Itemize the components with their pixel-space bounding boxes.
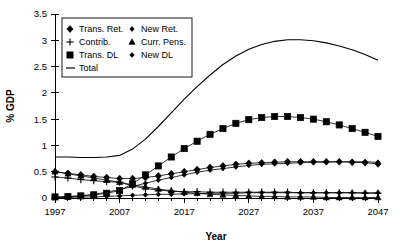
data-point-marker <box>285 190 289 195</box>
data-point-marker <box>363 190 367 195</box>
legend-item-label: New DL <box>141 50 173 60</box>
data-point-marker <box>349 126 355 132</box>
series-curr-pens <box>52 169 381 200</box>
data-point-marker <box>376 190 380 195</box>
data-point-marker <box>220 126 226 132</box>
data-point-marker <box>324 190 328 195</box>
y-tick-label: 3.5 <box>34 8 47 19</box>
y-tick-label: 1 <box>42 140 47 151</box>
data-point-marker <box>207 131 213 137</box>
data-point-marker <box>260 190 264 195</box>
x-tick-label: 2017 <box>174 206 195 217</box>
data-point-marker <box>284 113 290 119</box>
data-point-marker <box>246 117 252 123</box>
data-point-marker <box>298 190 302 195</box>
data-point-marker <box>117 188 123 194</box>
chart-figure: 00.511.522.533.5 19972007201720272037204… <box>0 0 400 247</box>
data-point-marker <box>272 113 278 119</box>
data-point-marker <box>233 120 239 126</box>
data-point-marker <box>156 192 160 197</box>
series-path <box>55 162 378 179</box>
data-point-marker <box>247 190 251 195</box>
legend-item-label: New Ret. <box>141 24 178 34</box>
data-point-marker <box>129 181 135 187</box>
data-point-marker <box>311 190 315 195</box>
data-point-marker <box>259 114 265 120</box>
data-point-marker <box>323 119 329 125</box>
data-point-marker <box>143 192 147 197</box>
x-tick-label: 2037 <box>303 206 324 217</box>
data-point-marker <box>350 190 354 195</box>
y-tick-label: 2 <box>42 87 47 98</box>
y-tick-label: 0 <box>42 192 47 203</box>
legend-item-label: Curr. Pens. <box>141 37 186 47</box>
data-point-marker <box>194 138 200 144</box>
chart-legend: Trans. Ret.New Ret.Contrib.Curr. Pens.Tr… <box>62 18 192 77</box>
x-axis-title: Year <box>205 231 226 242</box>
line-chart: 00.511.522.533.5 19972007201720272037204… <box>0 0 400 247</box>
data-point-marker <box>272 190 276 195</box>
data-point-marker <box>181 145 187 151</box>
x-tick-label: 2027 <box>238 206 259 217</box>
data-point-marker <box>297 114 303 120</box>
y-tick-label: 1.5 <box>34 114 47 125</box>
legend-item-label: Trans. DL <box>79 50 118 60</box>
data-point-marker <box>362 129 368 135</box>
y-axis-title: % GDP <box>5 89 16 123</box>
data-point-marker <box>155 163 161 169</box>
data-point-marker <box>168 154 174 160</box>
data-point-marker <box>310 116 316 122</box>
x-tick-label: 2007 <box>109 206 130 217</box>
y-tick-label: 0.5 <box>34 166 47 177</box>
y-tick-label: 2.5 <box>34 61 47 72</box>
legend-item-label: Contrib. <box>79 37 111 47</box>
data-point-marker <box>51 173 58 180</box>
legend-marker-square <box>67 52 73 58</box>
data-point-marker <box>156 178 160 183</box>
data-point-marker <box>336 122 342 128</box>
data-point-marker <box>142 172 148 178</box>
data-point-marker <box>130 193 134 198</box>
data-point-marker <box>375 133 381 139</box>
x-tick-label: 2047 <box>367 206 388 217</box>
y-tick-label: 3 <box>42 35 47 46</box>
data-point-marker <box>337 190 341 195</box>
x-axis-ticks: 199720072017202720372047 <box>44 198 388 217</box>
legend-item-label: Total <box>79 63 98 73</box>
legend-item-label: Trans. Ret. <box>79 24 123 34</box>
x-tick-label: 1997 <box>44 206 65 217</box>
